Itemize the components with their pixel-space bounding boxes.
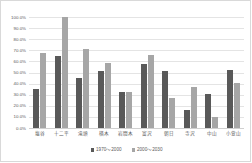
bar-group [137,17,159,128]
bar-series1[interactable] [55,56,61,128]
x-axis-tick-label: 十二平 [51,130,73,144]
bar-series1[interactable] [76,78,82,128]
x-axis-tick-label: 朝日 [158,130,180,144]
x-axis-tick-label: 塩谷 [29,130,51,144]
bar-series2[interactable] [234,83,240,128]
bar-group [180,17,202,128]
bar-group [158,17,180,128]
bar-series1[interactable] [33,89,39,128]
x-axis-tick-label: 中山 [201,130,223,144]
bar-series2[interactable] [169,98,175,128]
legend-entry[interactable]: 2000〜2030 [132,147,163,153]
plot-area [29,17,244,128]
bar-series2[interactable] [105,63,111,128]
bar-group [201,17,223,128]
bar-series1[interactable] [184,110,190,128]
bar-group [29,17,51,128]
bar-series1[interactable] [205,94,211,128]
y-axis-tick-label: 10.0% [1,114,26,119]
x-axis-tick-label: 富沢 [137,130,159,144]
y-axis-tick-label: 20.0% [1,103,26,108]
legend-swatch-icon [132,148,136,152]
bar-series2[interactable] [148,55,154,128]
bar-series2[interactable] [126,92,132,128]
x-axis-tick-label: 滝頭 [72,130,94,144]
chart-container: 0.0%10.0%20.0%30.0%40.0%50.0%60.0%70.0%8… [0,0,251,162]
legend-label: 1970〜2000 [96,147,121,153]
legend-entry[interactable]: 1970〜2000 [91,147,122,153]
y-axis-tick-label: 60.0% [1,59,26,64]
x-axis-tick-label: 小萱山 [223,130,245,144]
bar-group [223,17,245,128]
bar-series1[interactable] [141,64,147,128]
y-axis-tick-label: 30.0% [1,92,26,97]
bar-series2[interactable] [40,53,46,128]
bar-series2[interactable] [212,117,218,128]
chart-legend: 1970〜20002000〜2030 [1,147,252,153]
bar-group [72,17,94,128]
y-axis-tick-label: 70.0% [1,48,26,53]
x-axis-tick-label: 寺沢 [180,130,202,144]
y-axis-tick-label: 0.0% [1,126,26,131]
x-axis-tick-label: 楢木 [94,130,116,144]
bar-series1[interactable] [119,92,125,128]
bar-group [51,17,73,128]
x-axis: 塩谷十二平滝頭楢木岩間木富沢朝日寺沢中山小萱山 [29,130,244,144]
y-axis-tick-label: 100.0% [1,15,26,20]
bar-series1[interactable] [98,71,104,128]
y-axis-tick-label: 80.0% [1,37,26,42]
bar-group [115,17,137,128]
bars-layer [29,17,244,128]
x-axis-tick-label: 岩間木 [115,130,137,144]
legend-swatch-icon [91,148,95,152]
gridline [29,128,244,129]
legend-label: 2000〜2030 [137,147,162,153]
bar-series1[interactable] [227,70,233,128]
y-axis-tick-label: 40.0% [1,81,26,86]
bar-series2[interactable] [83,49,89,128]
bar-series2[interactable] [191,87,197,128]
bar-group [94,17,116,128]
y-axis-tick-label: 90.0% [1,26,26,31]
bar-series1[interactable] [162,71,168,128]
y-axis: 0.0%10.0%20.0%30.0%40.0%50.0%60.0%70.0%8… [1,1,29,163]
y-axis-tick-label: 50.0% [1,70,26,75]
bar-series2[interactable] [62,17,68,128]
